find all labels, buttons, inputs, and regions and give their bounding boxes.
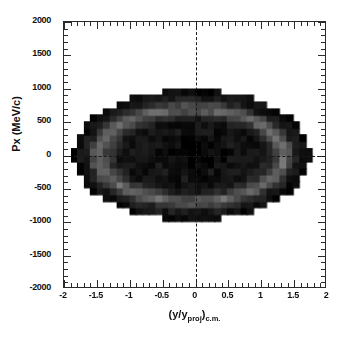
y-tick-minor <box>64 236 68 237</box>
x-tick-label: 1.5 <box>287 290 299 300</box>
y-tick-label: -1500 <box>29 249 51 259</box>
y-tick-minor <box>321 276 325 277</box>
y-tick-major <box>318 222 325 223</box>
y-tick-major <box>64 89 71 90</box>
y-tick-minor <box>64 242 68 243</box>
reference-line-vertical <box>196 22 197 287</box>
y-tick-minor <box>64 216 68 217</box>
x-tick-minor <box>182 283 183 287</box>
x-tick-minor <box>242 283 243 287</box>
y-tick-minor <box>64 102 68 103</box>
x-tick-major <box>261 22 262 29</box>
x-tick-minor <box>248 22 249 26</box>
y-tick-major <box>64 256 71 257</box>
x-tick-minor <box>156 283 157 287</box>
x-tick-minor <box>281 283 282 287</box>
y-tick-minor <box>64 269 68 270</box>
x-tick-minor <box>103 22 104 26</box>
x-tick-minor <box>84 283 85 287</box>
y-tick-minor <box>321 182 325 183</box>
x-tick-major <box>64 280 65 287</box>
x-axis-title-sub-cm: c.m. <box>205 314 220 323</box>
x-tick-minor <box>90 22 91 26</box>
y-tick-minor <box>64 35 68 36</box>
x-tick-minor <box>242 22 243 26</box>
x-tick-label: -1 <box>125 290 132 300</box>
x-tick-minor <box>143 22 144 26</box>
x-tick-minor <box>314 22 315 26</box>
x-tick-minor <box>209 283 210 287</box>
y-tick-minor <box>64 176 68 177</box>
y-tick-label: -1000 <box>29 215 51 225</box>
x-tick-minor <box>281 22 282 26</box>
x-tick-minor <box>202 283 203 287</box>
x-tick-minor <box>255 283 256 287</box>
x-axis-title-main: (y/y <box>169 308 188 320</box>
x-tick-minor <box>307 22 308 26</box>
x-tick-major <box>294 280 295 287</box>
y-tick-minor <box>64 196 68 197</box>
y-tick-minor <box>321 202 325 203</box>
y-tick-label: 2000 <box>32 15 51 25</box>
y-tick-major <box>318 55 325 56</box>
x-tick-minor <box>117 22 118 26</box>
y-tick-minor <box>321 169 325 170</box>
y-tick-minor <box>64 69 68 70</box>
x-tick-minor <box>169 22 170 26</box>
x-tick-minor <box>268 283 269 287</box>
y-tick-minor <box>64 262 68 263</box>
x-tick-minor <box>202 22 203 26</box>
x-tick-major <box>97 280 98 287</box>
x-tick-minor <box>103 283 104 287</box>
x-tick-minor <box>110 22 111 26</box>
x-tick-minor <box>189 283 190 287</box>
x-tick-label: -1.5 <box>89 290 103 300</box>
y-tick-minor <box>321 236 325 237</box>
y-tick-minor <box>64 182 68 183</box>
x-tick-major <box>64 22 65 29</box>
y-tick-minor <box>64 229 68 230</box>
x-tick-major <box>163 22 164 29</box>
y-tick-label: -2000 <box>29 282 51 292</box>
y-tick-minor <box>321 135 325 136</box>
y-tick-minor <box>321 216 325 217</box>
y-tick-major <box>318 22 325 23</box>
x-tick-minor <box>274 22 275 26</box>
y-tick-minor <box>321 262 325 263</box>
x-tick-minor <box>248 283 249 287</box>
x-tick-minor <box>156 22 157 26</box>
x-tick-minor <box>149 22 150 26</box>
x-tick-minor <box>235 22 236 26</box>
x-tick-minor <box>176 22 177 26</box>
x-tick-minor <box>307 283 308 287</box>
y-tick-minor <box>64 42 68 43</box>
x-tick-major <box>163 280 164 287</box>
x-tick-major <box>261 280 262 287</box>
x-tick-minor <box>255 22 256 26</box>
y-tick-minor <box>321 129 325 130</box>
y-tick-major <box>64 122 71 123</box>
y-tick-minor <box>321 42 325 43</box>
y-tick-minor <box>64 149 68 150</box>
y-tick-major <box>64 189 71 190</box>
y-axis-tick-labels: 2000150010005000-500-1000-1500-2000 <box>0 21 59 288</box>
x-tick-major <box>130 280 131 287</box>
y-tick-minor <box>321 249 325 250</box>
y-tick-minor <box>321 162 325 163</box>
y-tick-minor <box>321 49 325 50</box>
x-tick-minor <box>301 283 302 287</box>
x-tick-minor <box>136 283 137 287</box>
x-tick-minor <box>136 22 137 26</box>
y-tick-minor <box>64 276 68 277</box>
y-tick-minor <box>321 75 325 76</box>
reference-line-horizontal <box>64 156 325 157</box>
x-tick-minor <box>182 22 183 26</box>
x-tick-label: 1 <box>258 290 263 300</box>
y-tick-minor <box>64 95 68 96</box>
y-tick-minor <box>321 69 325 70</box>
x-tick-minor <box>123 22 124 26</box>
x-tick-minor <box>215 22 216 26</box>
y-tick-minor <box>64 109 68 110</box>
x-tick-minor <box>301 22 302 26</box>
y-tick-minor <box>64 115 68 116</box>
